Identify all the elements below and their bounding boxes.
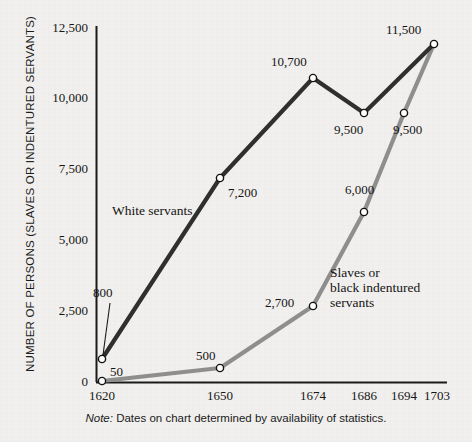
chart-figure: NUMBER OF PERSONS (SLAVES OR INDENTURED …	[0, 0, 472, 442]
y-tick-label-2500: 2,500	[8, 303, 88, 319]
y-tick-label-5000: 5,000	[8, 232, 88, 248]
series-label-slaves-line3: servants	[330, 295, 420, 310]
chart-note-text: Dates on chart determined by availabilit…	[116, 412, 386, 424]
chart-note-label: Note:	[85, 412, 113, 424]
point-label-slaves-1650: 500	[196, 348, 216, 364]
point-label-white-1674: 10,700	[271, 54, 307, 70]
series-label-slaves-line1: Slaves or	[330, 265, 420, 280]
y-tick-label-7500: 7,500	[8, 161, 88, 177]
data-point-slaves-1674	[309, 302, 316, 309]
y-tick-label-12500: 12,500	[8, 20, 88, 36]
point-label-white-1620: 800	[93, 285, 113, 301]
series-label-slaves: Slaves or black indentured servants	[330, 265, 420, 310]
x-tick-label-1694: 1694	[391, 388, 417, 404]
data-point-white-1650	[216, 174, 223, 181]
point-label-slaves-1694: 9,500	[393, 122, 422, 138]
point-label-white-1686: 9,500	[334, 122, 363, 138]
point-label-slaves-1686: 6,000	[345, 182, 374, 198]
x-tick-label-1686: 1686	[351, 388, 377, 404]
data-point-slaves-1620	[98, 377, 105, 384]
series-label-white-servants: White servants	[112, 203, 193, 218]
chart-note: Note: Dates on chart determined by avail…	[85, 412, 386, 424]
y-tick-label-10000: 10,000	[8, 90, 88, 106]
data-point-slaves-1650	[216, 364, 223, 371]
point-label-white-1650: 7,200	[228, 185, 257, 201]
series-label-slaves-line2: black indentured	[330, 280, 420, 295]
data-point-white-1674	[309, 74, 316, 81]
x-tick-label-1620: 1620	[89, 388, 115, 404]
x-tick-label-1650: 1650	[207, 388, 233, 404]
point-label-slaves-1620: 50	[110, 364, 123, 380]
point-label-slaves-1674: 2,700	[265, 295, 294, 311]
x-tick-label-1674: 1674	[300, 388, 326, 404]
series-line-white-servants	[102, 44, 434, 359]
point-label-white-1703: 11,500	[386, 22, 421, 38]
data-point-slaves-1694	[400, 109, 407, 116]
x-tick-label-1703: 1703	[424, 388, 450, 404]
data-point-white-1686	[360, 109, 367, 116]
data-point-white-1620	[98, 355, 105, 362]
data-point-convergence-1703	[430, 40, 437, 47]
data-point-slaves-1686	[360, 208, 367, 215]
y-tick-label-0: 0	[8, 374, 88, 390]
